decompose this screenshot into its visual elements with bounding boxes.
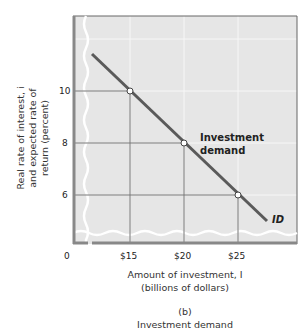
y-axis-label: Real rate of interest, i and expected ra… (15, 48, 51, 228)
x-tick-25: $25 (228, 251, 245, 261)
y-axis-label-line3: return (percent) (39, 48, 51, 228)
figure-caption: (b) Investment demand (95, 305, 275, 331)
y-tick-6: 6 (62, 190, 68, 200)
chart-title: Investment demand (95, 318, 275, 331)
y-tick-8: 8 (62, 138, 68, 148)
curve-label-line1: Investment (200, 131, 264, 144)
data-point (127, 88, 133, 94)
curve-label: Investment demand (200, 131, 264, 157)
x-tick-20: $20 (174, 251, 191, 261)
data-point (235, 192, 241, 198)
x-axis-label-line1: Amount of investment, I (95, 268, 275, 281)
x-axis-label-line2: (billions of dollars) (95, 281, 275, 294)
x-tick-0: 0 (64, 251, 70, 261)
y-tick-10: 10 (59, 86, 70, 96)
data-point (181, 140, 187, 146)
plot-area (73, 16, 297, 244)
x-axis-label: Amount of investment, I (billions of dol… (95, 268, 275, 294)
x-tick-15: $15 (120, 251, 137, 261)
y-axis-label-line2: and expected rate of (27, 48, 39, 228)
id-label: ID (272, 214, 284, 225)
y-axis-label-line1: Real rate of interest, i (15, 48, 27, 228)
panel-label: (b) (95, 305, 275, 318)
curve-label-line2: demand (200, 144, 264, 157)
